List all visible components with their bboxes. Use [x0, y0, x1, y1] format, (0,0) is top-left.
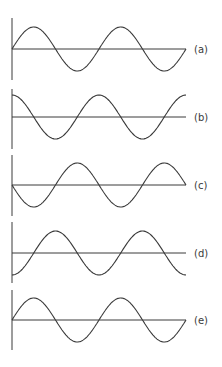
- panel-label: (d): [194, 248, 208, 259]
- panel-d: (d): [12, 222, 208, 283]
- panel-c: (c): [12, 155, 207, 216]
- panel-label: (c): [194, 180, 207, 191]
- panel-b: (b): [12, 89, 208, 149]
- panel-a: (a): [12, 18, 208, 80]
- waveform-figure: (a)(b)(c)(d)(e): [0, 0, 222, 367]
- panel-label: (e): [194, 315, 208, 326]
- panel-label: (b): [194, 112, 208, 123]
- panel-e: (e): [12, 290, 208, 350]
- panel-label: (a): [194, 44, 208, 55]
